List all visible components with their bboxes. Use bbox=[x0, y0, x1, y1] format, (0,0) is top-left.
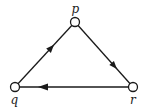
node-label-p: p bbox=[72, 2, 80, 16]
node-r bbox=[129, 83, 138, 92]
edge-p-r bbox=[75, 22, 133, 87]
node-label-q: q bbox=[11, 93, 19, 107]
node-label-r: r bbox=[130, 93, 137, 107]
node-p bbox=[71, 18, 80, 27]
directed-graph: p q r bbox=[0, 0, 146, 110]
edge-q-p bbox=[15, 22, 75, 87]
node-q bbox=[11, 83, 20, 92]
arrow-r-q-icon bbox=[38, 84, 48, 91]
